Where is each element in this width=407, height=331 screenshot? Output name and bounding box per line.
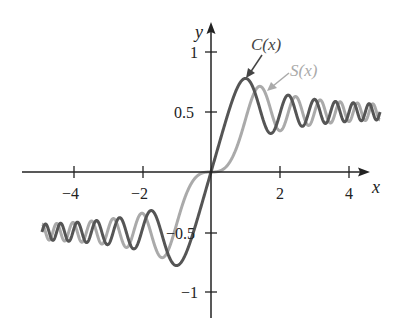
y-axis: 1 0.5 −0.5 −1 y (166, 22, 217, 318)
s-curve-label: S(x) (290, 61, 318, 80)
fresnel-chart: −4 −2 2 4 x 1 0.5 −0.5 −1 y C(x) S(x) (0, 0, 407, 331)
x-axis-label: x (371, 177, 380, 197)
x-tick-label: 4 (345, 185, 353, 202)
y-tick-label: 1 (190, 44, 198, 61)
y-tick-label: −0.5 (166, 225, 195, 242)
x-axis: −4 −2 2 4 x (22, 166, 380, 202)
y-axis-label: y (193, 22, 203, 42)
c-arrow-icon (246, 68, 255, 78)
x-tick-label: −4 (62, 185, 79, 202)
c-annotation: C(x) (246, 35, 282, 78)
y-tick-label: −1 (181, 284, 198, 301)
x-tick-label: 2 (276, 185, 284, 202)
c-curve-label: C(x) (251, 35, 282, 54)
s-annotation: S(x) (267, 61, 318, 91)
x-tick-label: −2 (131, 185, 148, 202)
y-tick-label: 0.5 (174, 104, 194, 121)
